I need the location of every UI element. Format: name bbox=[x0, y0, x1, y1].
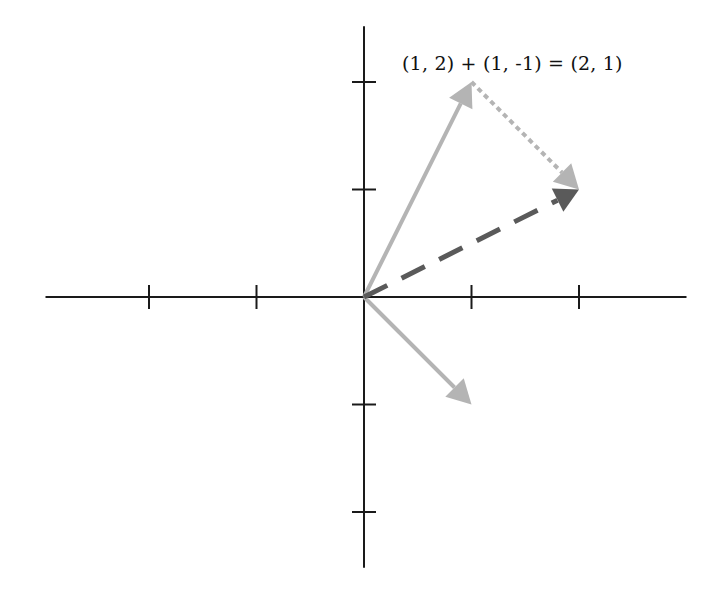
vector-sum bbox=[364, 189, 579, 297]
vector-b-translated bbox=[472, 82, 580, 190]
vector-shaft bbox=[364, 200, 558, 297]
vector-shaft bbox=[364, 103, 461, 297]
vector-b bbox=[364, 297, 472, 405]
vectors bbox=[364, 82, 579, 405]
vector-shaft bbox=[364, 297, 455, 388]
vector-diagram bbox=[0, 0, 722, 594]
equation-label: (1, 2) + (1, -1) = (2, 1) bbox=[402, 52, 623, 74]
vector-shaft bbox=[472, 82, 563, 173]
vector-a bbox=[364, 82, 472, 297]
